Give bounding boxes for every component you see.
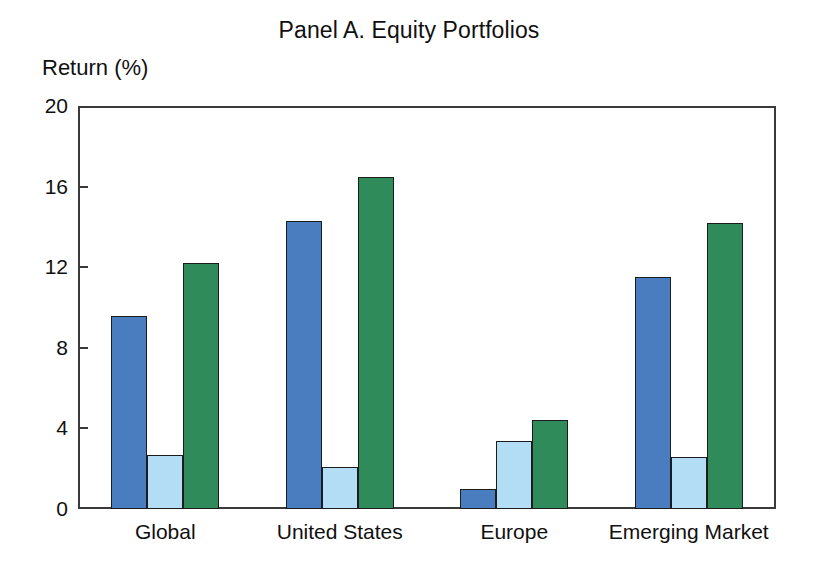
x-tick-label: Global [135,519,196,545]
y-tick-mark [78,347,88,349]
bars-layer [78,106,776,509]
bar [358,177,394,509]
bar [707,223,743,509]
y-tick-label: 8 [10,337,68,358]
y-tick-label: 16 [10,176,68,197]
bar [532,420,568,509]
y-tick-mark [78,186,88,188]
bar [496,441,532,510]
y-tick-label: 0 [10,498,68,519]
bar [460,489,496,509]
bar [322,467,358,509]
x-tick-label: United States [277,519,403,545]
x-tick-label: Emerging Market [609,519,769,545]
y-tick-mark [78,266,88,268]
y-axis-label: Return (%) [42,55,148,81]
bar [147,455,183,509]
y-axis-ticks: 048121620 [0,106,68,509]
bar [671,457,707,509]
bar [635,277,671,509]
bar [286,221,322,509]
x-tick-label: Europe [480,519,548,545]
chart-title: Panel A. Equity Portfolios [0,16,818,44]
y-tick-label: 20 [10,95,68,116]
bar [111,316,147,509]
chart-figure: Panel A. Equity Portfolios Return (%) 04… [0,0,818,581]
y-tick-mark [78,427,88,429]
y-tick-label: 12 [10,256,68,277]
y-tick-label: 4 [10,417,68,438]
bar [183,263,219,509]
x-axis-ticks: GlobalUnited StatesEuropeEmerging Market [78,519,776,559]
